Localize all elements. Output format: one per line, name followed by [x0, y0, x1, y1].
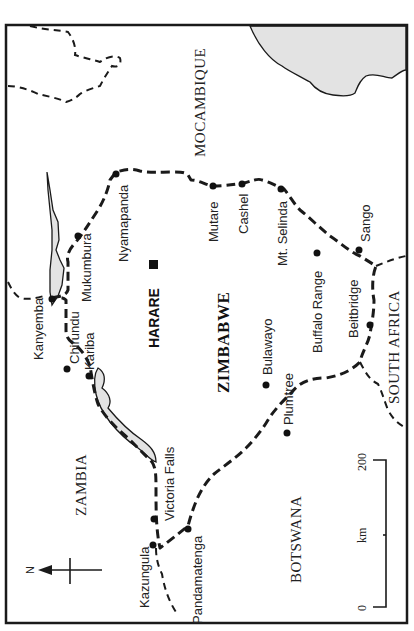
label-buffalo-range: Buffalo Range [310, 271, 325, 353]
label-cashel: Cashel [236, 193, 251, 234]
town-dot-sango [356, 247, 363, 254]
scale-label-km: km [355, 527, 369, 543]
caprivi-border [156, 548, 176, 612]
label-kanyemba: Kanyemba [31, 297, 46, 360]
town-dot-mutare [210, 183, 217, 190]
capital-square-icon [149, 260, 158, 269]
town-dot-mt-selinda [278, 186, 285, 193]
scale-bar [373, 460, 386, 607]
south-africa-border [376, 256, 406, 266]
town-dot-pandamatenga [185, 526, 192, 533]
town-dot-cashel [239, 181, 246, 188]
zimbabwe-border-posts-map: Kanyemba Chirundu Kariba Mukumbura Nyama… [0, 0, 414, 631]
label-zimbabwe: ZIMBABWE [214, 292, 233, 393]
scale-label-200: 200 [355, 453, 369, 471]
town-dot-kariba [86, 373, 93, 380]
label-mutare: Mutare [206, 202, 221, 242]
label-beitbridge: Beitbridge [346, 279, 361, 338]
town-dot-chirundu [64, 366, 71, 373]
label-mt-selinda: Mt. Selinda [275, 200, 290, 266]
town-dot-bulawayo [263, 382, 270, 389]
ocean-area [250, 26, 406, 96]
lake-cahora-bassa [47, 172, 64, 305]
label-harare: HARARE [146, 288, 162, 348]
town-dot-nyamapanda [113, 171, 120, 178]
label-chirundu: Chirundu [67, 311, 82, 364]
town-dot-plumtree [284, 430, 291, 437]
zambia-northeast-border [8, 282, 44, 299]
northern-border [8, 26, 121, 102]
label-nyamapanda: Nyamapanda [116, 184, 131, 262]
label-bulawayo: Bulawayo [260, 319, 275, 375]
label-kariba: Kariba [82, 332, 97, 370]
label-mozambique: MOCAMBIQUE [192, 48, 208, 157]
label-zambia: ZAMBIA [73, 454, 89, 516]
north-arrow-icon [38, 558, 102, 584]
town-dot-kanyemba [49, 296, 56, 303]
label-kazungula: Kazungula [137, 546, 152, 608]
label-botswana: BOTSWANA [288, 496, 304, 583]
scale-label-0: 0 [355, 605, 369, 611]
label-pandamatenga: Pandamatenga [190, 535, 205, 624]
label-plumtree: Plumtree [281, 373, 296, 425]
label-victoria-falls: Victoria Falls [162, 446, 177, 521]
label-sango: Sango [358, 204, 373, 242]
north-label: N [24, 566, 36, 574]
label-mukumbura: Mukumbura [79, 233, 94, 302]
town-dot-buffalo-range [314, 250, 321, 257]
label-south-africa: SOUTH AFRICA [386, 290, 402, 404]
town-dot-beitbridge [367, 322, 374, 329]
town-dot-victoria-falls [151, 516, 158, 523]
